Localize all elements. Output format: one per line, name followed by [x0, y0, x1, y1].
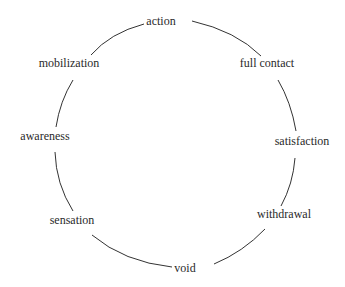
arc-awareness-mobilization — [56, 80, 73, 127]
stage-withdrawal: withdrawal — [257, 208, 311, 220]
stage-awareness: awareness — [20, 130, 69, 142]
arc-void-sensation — [92, 235, 172, 267]
arc-action-full-contact — [192, 21, 261, 56]
stage-void: void — [174, 262, 195, 274]
stage-sensation: sensation — [50, 214, 95, 226]
stage-full-contact: full contact — [240, 57, 294, 69]
stage-mobilization: mobilization — [39, 57, 100, 69]
arc-withdrawal-void — [214, 229, 265, 264]
stage-action: action — [146, 15, 175, 27]
arc-sensation-awareness — [55, 152, 73, 211]
arc-full-contact-satisfaction — [278, 80, 296, 131]
stage-satisfaction: satisfaction — [275, 135, 330, 147]
arc-mobilization-action — [91, 24, 144, 55]
arc-satisfaction-withdrawal — [281, 158, 295, 206]
